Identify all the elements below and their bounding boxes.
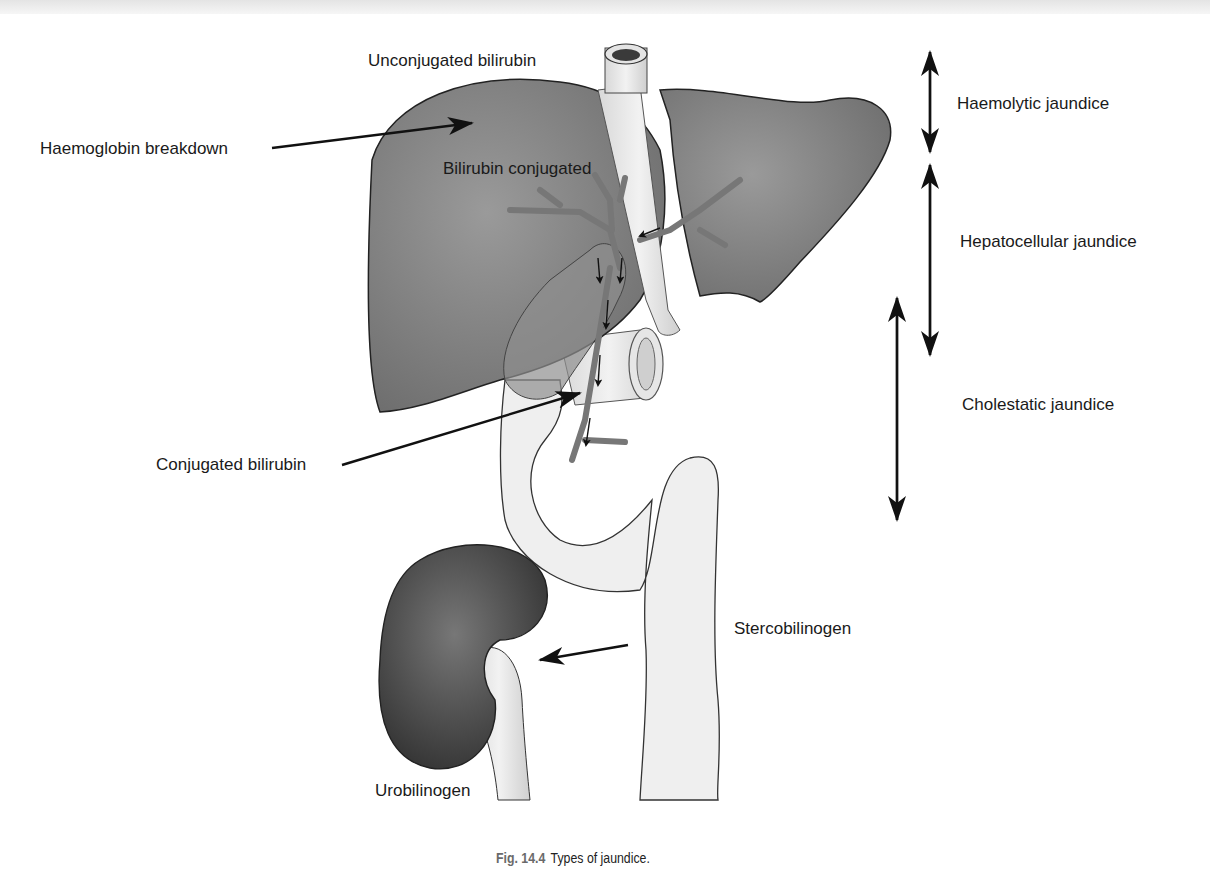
label-stercobilinogen: Stercobilinogen (734, 620, 851, 637)
figure-caption-text: Types of jaundice. (551, 850, 650, 866)
stercobilinogen-arrow (540, 645, 628, 660)
figure-number: Fig. 14.4 (496, 850, 545, 866)
label-hepatocellular-jaundice: Hepatocellular jaundice (960, 233, 1137, 250)
kidney (379, 545, 547, 800)
label-unconjugated-bilirubin: Unconjugated bilirubin (368, 52, 536, 69)
label-haemoglobin-breakdown: Haemoglobin breakdown (40, 140, 228, 157)
label-bilirubin-conjugated: Bilirubin conjugated (443, 160, 591, 177)
label-urobilinogen: Urobilinogen (375, 782, 470, 799)
label-haemolytic-jaundice: Haemolytic jaundice (957, 95, 1109, 112)
jaundice-range-arrows (897, 52, 930, 520)
jaundice-diagram (0, 0, 1210, 870)
label-conjugated-bilirubin: Conjugated bilirubin (156, 456, 306, 473)
figure-caption: Fig. 14.4Types of jaundice. (496, 850, 650, 866)
label-cholestatic-jaundice: Cholestatic jaundice (962, 396, 1114, 413)
